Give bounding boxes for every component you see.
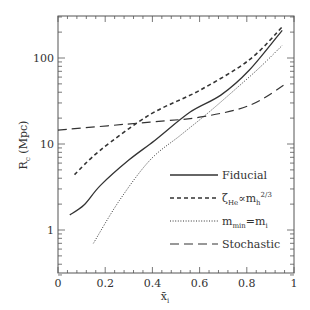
y-tick-label: 1 <box>47 224 54 237</box>
legend-label: mmin=mi <box>222 215 268 230</box>
legend-label: Fiducial <box>222 169 268 182</box>
plot-frame <box>58 16 294 273</box>
x-tick-label: 0 <box>55 277 62 290</box>
axis-ticks <box>58 16 294 275</box>
x-tick-label: 0.2 <box>96 277 114 290</box>
chart: 00.20.40.60.81110100 FiducialζHe∝mh2/3mm… <box>0 0 310 310</box>
curve-long-dashed <box>58 83 287 130</box>
x-tick-label: 1 <box>291 277 298 290</box>
y-axis-label: Rc (Mpc) <box>17 121 32 170</box>
x-tick-label: 0.8 <box>238 277 256 290</box>
legend-label: Stochastic <box>222 238 280 251</box>
x-tick-label: 0.6 <box>191 277 209 290</box>
y-tick-label: 100 <box>33 52 54 65</box>
x-tick-label: 0.4 <box>144 277 162 290</box>
legend: FiducialζHe∝mh2/3mmin=miStochastic <box>170 169 280 251</box>
data-curves <box>58 27 287 243</box>
y-tick-label: 10 <box>40 138 54 151</box>
curve-dotted <box>93 45 282 243</box>
curve-dashed <box>75 27 283 175</box>
plot-border <box>58 16 294 273</box>
x-axis-label: x̄i <box>161 290 170 305</box>
legend-label: ζHe∝mh2/3 <box>222 191 272 207</box>
